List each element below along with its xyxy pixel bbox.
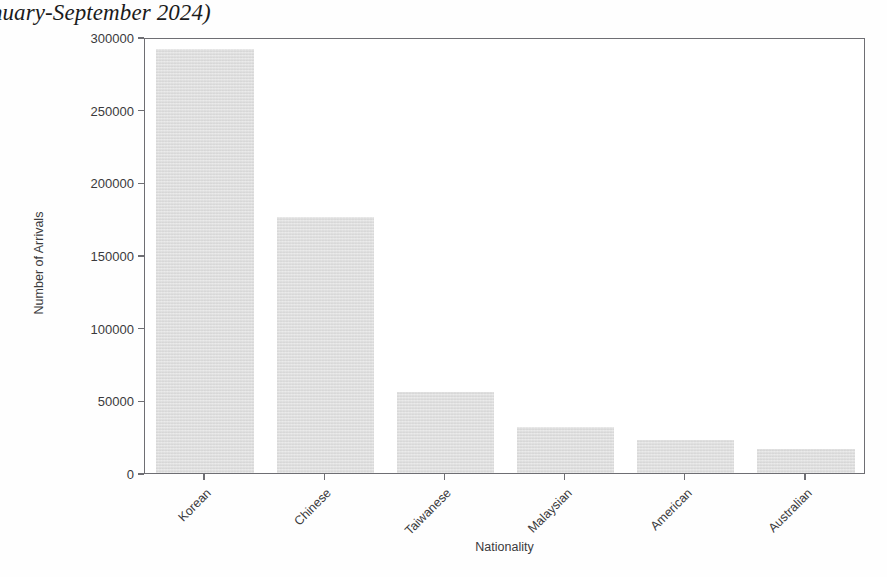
x-tick-label-text: Australian	[766, 486, 815, 535]
x-tick-label-text: Taiwanese	[403, 486, 455, 538]
y-tick-label: 200000	[91, 176, 134, 191]
bar-taiwanese	[397, 392, 494, 473]
y-tick-label: 300000	[91, 31, 134, 46]
x-tick-label-chinese: Chinese	[197, 486, 334, 577]
y-tick-mark	[138, 473, 144, 474]
x-tick-mark	[804, 474, 805, 480]
bar-chinese	[277, 217, 374, 473]
chart-title: ality (January-September 2024)	[0, 0, 434, 26]
scanned-page: ality (January-September 2024) 050000100…	[0, 0, 887, 577]
x-tick-label-korean: Korean	[77, 486, 214, 577]
x-tick-label-taiwanese: Taiwanese	[317, 486, 454, 577]
x-tick-mark	[444, 474, 445, 480]
x-tick-label-text: American	[647, 486, 694, 533]
x-tick-label-text: Korean	[176, 486, 214, 524]
x-tick-label-text: Malaysian	[525, 486, 575, 536]
x-tick-label-malaysian: Malaysian	[437, 486, 574, 577]
y-tick-label: 100000	[91, 321, 134, 336]
bar-american	[637, 440, 734, 473]
y-tick-label: 50000	[98, 394, 134, 409]
y-tick-mark	[138, 328, 144, 329]
plot-area	[144, 38, 865, 474]
y-tick-label: 0	[127, 467, 134, 482]
x-tick-mark	[684, 474, 685, 480]
x-tick-mark	[564, 474, 565, 480]
x-axis-label: Nationality	[144, 540, 865, 554]
bars-layer	[145, 39, 864, 473]
x-tick-label-american: American	[557, 486, 694, 577]
y-tick-label: 150000	[91, 249, 134, 264]
y-tick-mark	[138, 183, 144, 184]
x-tick-mark	[203, 474, 204, 480]
x-tick-label-australian: Australian	[678, 486, 815, 577]
y-axis-label: Number of Arrivals	[32, 183, 46, 343]
x-tick-mark	[324, 474, 325, 480]
y-tick-mark	[138, 255, 144, 256]
y-tick-mark	[138, 110, 144, 111]
y-tick-mark	[138, 401, 144, 402]
y-tick-label: 250000	[91, 103, 134, 118]
bar-australian	[757, 449, 854, 473]
bar-malaysian	[517, 427, 614, 473]
x-tick-label-text: Chinese	[292, 486, 334, 528]
y-tick-mark	[138, 37, 144, 38]
bar-korean	[156, 49, 253, 473]
